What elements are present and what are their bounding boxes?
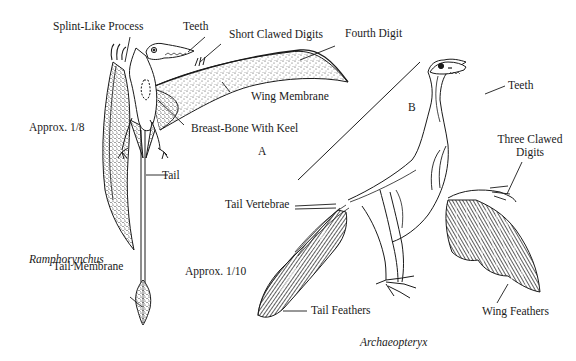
left-wing-membrane: [103, 62, 134, 250]
label-splint-like-process: Splint-Like Process: [53, 20, 143, 33]
label-teeth-b: Teeth: [508, 79, 533, 92]
scale-label-a: Approx. 1/8: [29, 121, 85, 134]
label-wing-feathers: Wing Feathers: [482, 305, 549, 318]
scale-label-b: Approx. 1/10: [185, 265, 246, 278]
label-tail-feathers: Tail Feathers: [311, 304, 371, 317]
ramphorynchus-body: [129, 48, 156, 131]
label-short-clawed-digits: Short Clawed Digits: [229, 28, 323, 41]
label-fourth-digit: Fourth Digit: [345, 27, 402, 40]
label-tail: Tail: [162, 169, 180, 182]
panel-divider: [298, 62, 420, 180]
panel-letter-a: A: [258, 145, 266, 158]
label-three-clawed-digits: Three Clawed Digits: [490, 133, 570, 159]
label-wing-membrane: Wing Membrane: [251, 90, 329, 103]
tail-feathers: [258, 210, 347, 317]
species-name-ramphorynchus: Ramphorynchus: [29, 253, 104, 266]
label-three-clawed-line1: Three Clawed: [490, 133, 570, 146]
species-name-archaeopteryx: Archaeopteryx: [360, 336, 427, 349]
label-breast-bone-with-keel: Breast-Bone With Keel: [191, 122, 298, 135]
panel-letter-b: B: [408, 101, 416, 114]
label-teeth-a: Teeth: [183, 20, 208, 33]
figure-canvas: Splint-Like Process Teeth Short Clawed D…: [0, 0, 576, 361]
label-tail-vertebrae: Tail Vertebrae: [225, 198, 289, 211]
label-three-clawed-line2: Digits: [490, 146, 570, 159]
